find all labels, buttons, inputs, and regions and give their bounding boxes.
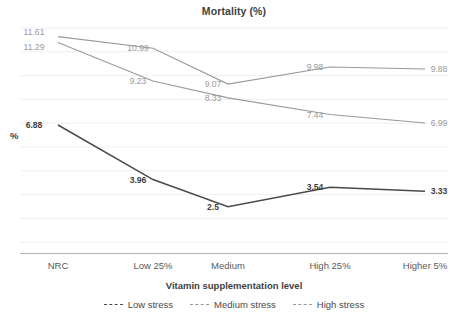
data-label: 9.07 <box>205 79 222 89</box>
series-line-medium-stress <box>58 43 425 123</box>
legend-item-low-stress[interactable]: Low stress <box>104 299 173 310</box>
series-lines <box>58 37 425 207</box>
legend-dash-icon-low-stress <box>104 304 123 305</box>
chart-legend: Low stress Medium stress High stress <box>0 299 468 310</box>
data-label: 8.33 <box>205 93 222 103</box>
data-label: 9.88 <box>431 64 448 74</box>
data-label: 9.23 <box>130 76 147 86</box>
gridlines <box>20 28 448 242</box>
data-label: 3.96 <box>130 175 147 185</box>
plot-area <box>0 0 468 320</box>
mortality-line-chart: Mortality (%) 6.883.962.53.543.3311.299.… <box>0 0 468 320</box>
legend-label-high-stress: High stress <box>317 299 365 310</box>
legend-item-medium-stress[interactable]: Medium stress <box>190 299 276 310</box>
data-label: 9.98 <box>307 62 324 72</box>
data-label: 6.88 <box>26 120 43 130</box>
x-axis-title: Vitamin supplementation level <box>0 280 468 291</box>
x-tick-label-2: Medium <box>211 260 245 271</box>
series-line-high-stress <box>58 37 425 84</box>
x-tick-label-0: NRC <box>48 260 69 271</box>
data-label: 6.99 <box>431 118 448 128</box>
x-tick-label-1: Low 25% <box>133 260 172 271</box>
data-label: 7.44 <box>307 110 324 120</box>
data-label: 11.29 <box>24 42 45 52</box>
data-label: 3.54 <box>307 182 324 192</box>
x-tick-label-3: High 25% <box>309 260 350 271</box>
data-label: 10.99 <box>127 43 149 53</box>
data-label: 2.5 <box>207 202 219 212</box>
legend-label-medium-stress: Medium stress <box>214 299 276 310</box>
data-label: 11.61 <box>24 27 45 37</box>
legend-dash-icon-medium-stress <box>190 304 209 305</box>
legend-item-high-stress[interactable]: High stress <box>293 299 365 310</box>
legend-dash-icon-high-stress <box>293 304 312 305</box>
y-axis-title: % <box>10 130 18 141</box>
x-tick-label-4: Higher 5% <box>403 260 447 271</box>
data-label: 3.33 <box>431 186 448 196</box>
legend-label-low-stress: Low stress <box>128 299 173 310</box>
